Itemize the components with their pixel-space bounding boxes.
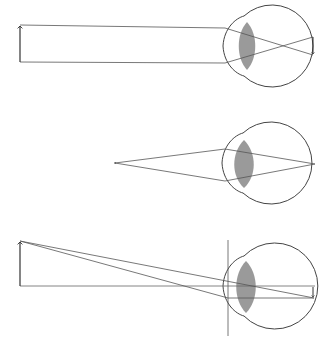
- ray-refracted-upper: [225, 28, 313, 55]
- panel-optical-axis: [20, 240, 318, 336]
- lens-icon: [236, 261, 256, 313]
- ray-through-nodal: [20, 241, 314, 298]
- lens-icon: [239, 22, 256, 70]
- ray-refracted-lower: [225, 37, 313, 63]
- ray-lower: [115, 163, 225, 181]
- lens-icon: [234, 140, 254, 188]
- source-point: [114, 162, 116, 164]
- eyeball-icon: [223, 5, 313, 87]
- ray-upper: [20, 25, 225, 28]
- eye-optics-diagram: [0, 0, 329, 348]
- ray-lower: [20, 62, 225, 63]
- panel-point-source: [114, 122, 315, 204]
- ray-to-reference: [20, 241, 228, 298]
- panel-distant-object: [20, 5, 313, 87]
- ray-upper: [115, 149, 225, 163]
